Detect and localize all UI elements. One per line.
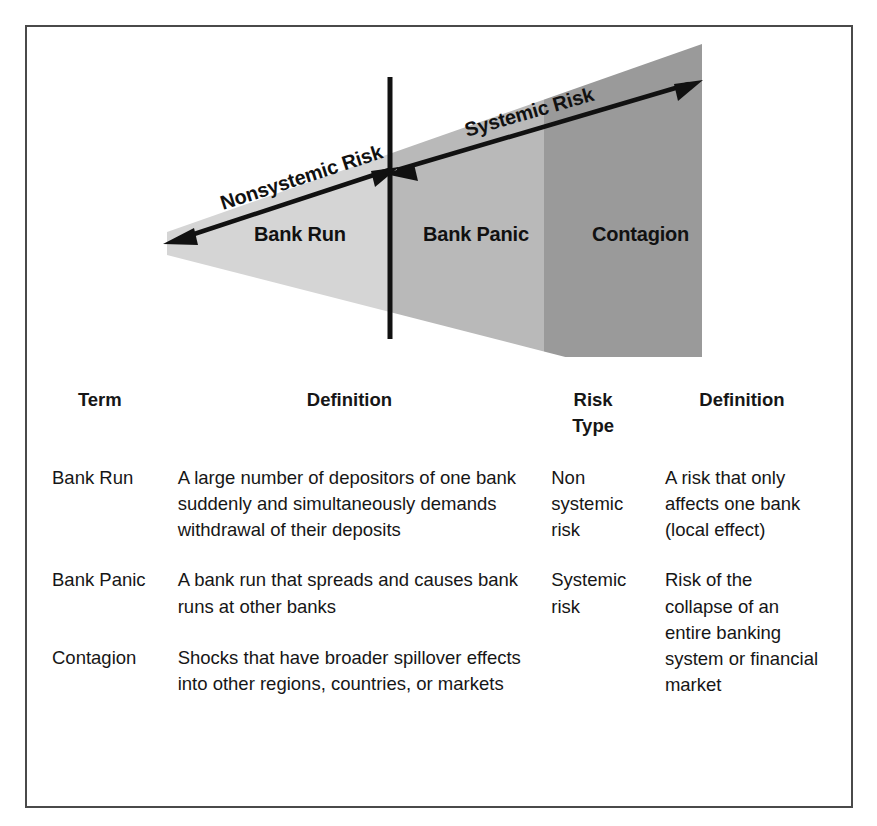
header-cell-term: Term [48,382,162,454]
cell-term-bank-panic: Bank Panic [48,556,162,634]
band-label-contagion: Contagion [592,223,689,245]
table-row: Bank Run A large number of depositors of… [48,454,833,557]
table-header-row: Term Definition Risk Type Definition [48,382,833,454]
cell-definition-contagion: Shocks that have broader spillover effec… [162,634,536,712]
figure-frame: Nonsystemic Risk Systemic Risk Bank Run … [25,25,853,808]
header-cell-risk-type: Risk Type [535,382,649,454]
table-row: Bank Panic A bank run that spreads and c… [48,556,833,634]
term-value: Bank Panic [48,556,162,606]
cell-risk-definition-nonsystemic: A risk that only affects one bank (local… [649,454,833,557]
term-value: Contagion [48,634,162,684]
risk-definition-value: A risk that only affects one bank (local… [649,454,833,557]
cell-term-contagion: Contagion [48,634,162,712]
header-label-definition-1: Definition [162,382,536,427]
band-label-bank-panic: Bank Panic [423,223,529,245]
cell-risk-type-nonsystemic: Non systemic risk [535,454,649,557]
header-label-definition-2: Definition [649,382,833,427]
risk-spectrum-diagram: Nonsystemic Risk Systemic Risk Bank Run … [27,27,855,357]
risk-type-value: Systemic risk [535,556,649,633]
header-cell-definition-1: Definition [162,382,536,454]
definition-value: A large number of depositors of one bank… [162,454,536,557]
risk-type-value: Non systemic risk [535,454,649,557]
header-label-risk-type: Risk Type [535,382,649,454]
cell-risk-definition-systemic: Risk of the collapse of an entire bankin… [649,556,833,711]
definition-value: A bank run that spreads and causes bank … [162,556,536,633]
cell-definition-bank-panic: A bank run that spreads and causes bank … [162,556,536,634]
band-bank-panic [392,27,544,357]
band-contagion [544,27,724,357]
band-label-bank-run: Bank Run [254,223,346,245]
header-cell-definition-2: Definition [649,382,833,454]
cell-definition-bank-run: A large number of depositors of one bank… [162,454,536,557]
header-label-term: Term [48,382,162,427]
cell-risk-type-systemic: Systemic risk [535,556,649,711]
term-value: Bank Run [48,454,162,504]
risk-definitions-table: Term Definition Risk Type Definition [48,382,833,712]
figure-page: Nonsystemic Risk Systemic Risk Bank Run … [0,0,877,826]
cell-term-bank-run: Bank Run [48,454,162,557]
risk-definition-value: Risk of the collapse of an entire bankin… [649,556,833,711]
definition-value: Shocks that have broader spillover effec… [162,634,536,711]
